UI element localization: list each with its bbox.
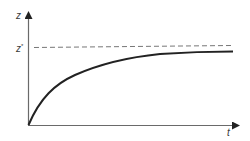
x-axis-label: t xyxy=(227,128,230,138)
saturation-curve xyxy=(29,52,234,126)
asymptote-dashed-line xyxy=(34,46,232,48)
asymptote-label: z* xyxy=(16,43,23,54)
y-axis-label: z xyxy=(16,11,21,21)
z-vs-t-diagram xyxy=(0,0,250,141)
